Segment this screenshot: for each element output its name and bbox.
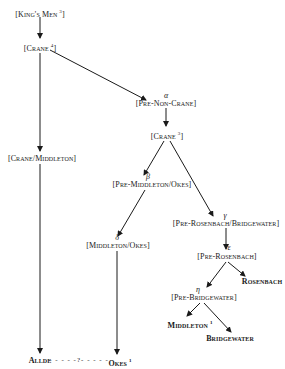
node-crane4: [Crane4] — [24, 41, 56, 53]
uncertain-link: - - - - -?- - - - - — [49, 356, 108, 364]
node-pre-rosenbach: [Pre-Rosenbach] — [197, 252, 256, 261]
edge-crane3-premiddletonokes — [144, 141, 164, 175]
node-kings-men: [King's Men3] — [15, 7, 64, 19]
node-label: Okes — [108, 359, 127, 368]
node-label: [Middleton/Okes] — [86, 241, 150, 250]
edge-crane3-prerosenbachbridgewater — [170, 141, 213, 216]
node-pre-middleton-okes: [Pre-Middleton/Okes] — [113, 180, 192, 189]
node-middleton-okes: [Middleton/Okes] — [86, 241, 150, 250]
siglum-epsilon: ε — [227, 244, 230, 252]
node-label: [Pre-Non-Crane] — [136, 99, 196, 108]
node-superscript: 1 — [129, 358, 132, 363]
edge-premiddletonokes-middletonokes — [118, 190, 145, 236]
node-label: [Pre-Rosenbach/Bridgewater] — [173, 219, 279, 228]
node-pre-bridgewater: [Pre-Bridgewater] — [171, 293, 236, 302]
node-label: [Crane/Middleton] — [8, 154, 76, 163]
node-label: Allde — [29, 356, 52, 365]
node-label: [Pre-Rosenbach] — [197, 252, 256, 261]
node-crane-middleton: [Crane/Middleton] — [8, 154, 76, 163]
node-label: [Crane — [24, 44, 49, 53]
node-label: Middleton — [168, 321, 208, 330]
node-label: [Pre-Middleton/Okes] — [113, 180, 192, 189]
node-rosenbach: Rosenbach — [242, 277, 282, 286]
stemma-diagram: [King's Men3] [Crane4] [Crane/Middleton]… — [0, 0, 285, 369]
node-allde: Allde — [29, 356, 52, 365]
edge-crane4-prenoncrane — [50, 50, 146, 100]
node-bridgewater: Bridgewater — [206, 334, 254, 343]
node-bracket: ] — [53, 44, 56, 53]
node-pre-non-crane: [Pre-Non-Crane] — [136, 99, 196, 108]
edge-prerosenbach-prebridgewater — [207, 262, 226, 287]
node-label: Rosenbach — [242, 277, 282, 286]
node-okes1: Okes1 — [108, 356, 131, 368]
node-middleton1: Middleton1 — [168, 318, 213, 330]
node-superscript: 1 — [210, 320, 213, 325]
node-crane3: [Crane3] — [151, 129, 183, 141]
edge-prerosenbach-rosenbach — [228, 262, 245, 276]
edge-prebridgewater-middleton1 — [187, 303, 200, 316]
node-label: [Crane — [151, 132, 176, 141]
node-label: [King's Men — [15, 10, 57, 19]
node-label: Bridgewater — [206, 334, 254, 343]
node-bracket: ] — [180, 132, 183, 141]
node-pre-rosenbach-bridgewater: [Pre-Rosenbach/Bridgewater] — [173, 219, 279, 228]
node-superscript: 3 — [59, 9, 62, 14]
node-label: [Pre-Bridgewater] — [171, 293, 236, 302]
